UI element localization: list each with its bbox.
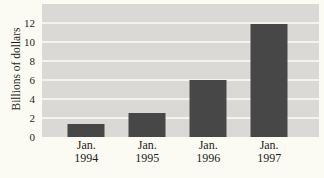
x-tick-1996: Jan.1996 — [196, 139, 220, 165]
x-tick-1997: Jan.1997 — [257, 139, 281, 165]
y-tick-10: 10 — [24, 37, 35, 48]
bar-chart-figure: Billions of dollars 024681012 Jan.1994Ja… — [0, 0, 324, 178]
x-axis-tick-labels: Jan.1994Jan.1995Jan.1996Jan.1997 — [42, 139, 319, 169]
y-tick-0: 0 — [30, 132, 36, 143]
y-tick-6: 6 — [30, 75, 36, 86]
x-tick-1995: Jan.1995 — [135, 139, 159, 165]
bar-1995 — [129, 113, 166, 137]
x-tick-year: 1994 — [74, 152, 98, 165]
bar-1996 — [190, 80, 227, 137]
x-tick-year: 1997 — [257, 152, 281, 165]
y-tick-2: 2 — [30, 113, 36, 124]
y-tick-4: 4 — [30, 94, 36, 105]
bar-1994 — [68, 124, 105, 137]
x-tick-1994: Jan.1994 — [74, 139, 98, 165]
y-tick-12: 12 — [24, 18, 35, 29]
y-tick-8: 8 — [30, 56, 36, 67]
plot-area — [42, 4, 319, 137]
bar-1997 — [251, 24, 288, 137]
y-axis-tick-labels: 024681012 — [0, 4, 37, 137]
x-tick-year: 1995 — [135, 152, 159, 165]
x-tick-year: 1996 — [196, 152, 220, 165]
